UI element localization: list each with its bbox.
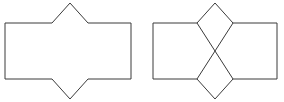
geometry-figure-canvas xyxy=(0,0,284,102)
canvas-background xyxy=(0,0,284,102)
